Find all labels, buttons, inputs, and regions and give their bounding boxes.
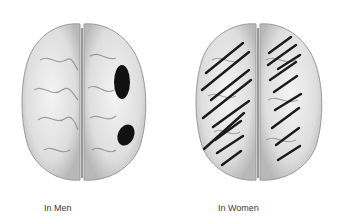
activation-spot-upper — [114, 65, 130, 99]
men-brain — [22, 24, 146, 180]
women-label: In Women — [218, 203, 259, 213]
women-brain — [196, 24, 322, 180]
brain-diagram — [0, 0, 338, 224]
men-label: In Men — [44, 203, 72, 213]
